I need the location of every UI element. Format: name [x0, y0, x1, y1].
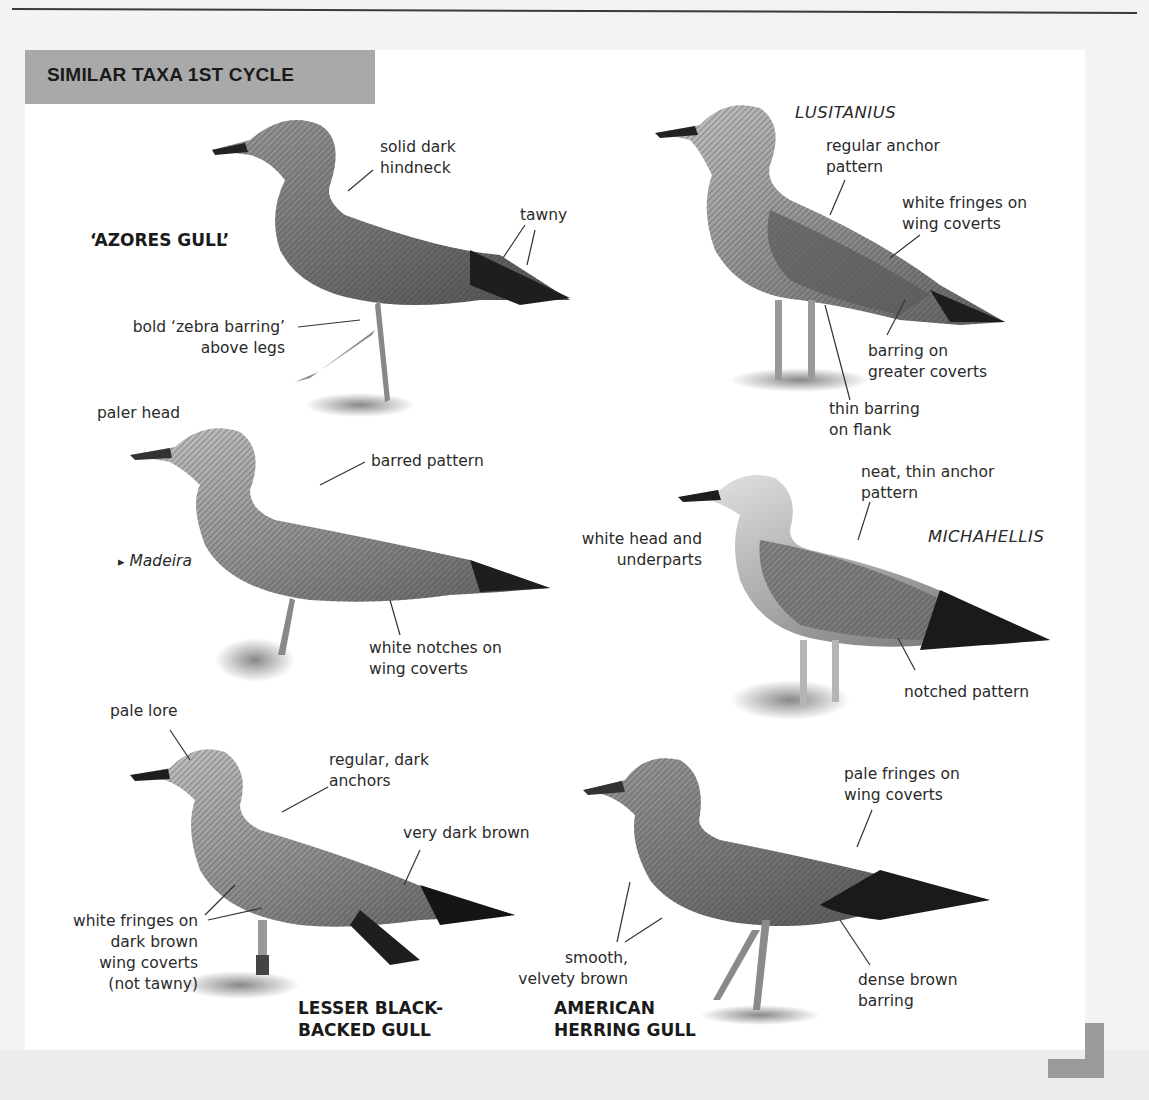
annotation-line: pale fringes on: [844, 764, 960, 785]
annotation-line: on flank: [829, 420, 920, 441]
annotation-line: wing coverts: [60, 953, 198, 974]
species-label-american-herring-gull: AMERICAN HERRING GULL: [554, 997, 696, 1041]
annotation-line: velvety brown: [510, 969, 628, 990]
annotation-line: barring: [858, 991, 958, 1012]
annotation-line: wing coverts: [902, 214, 1027, 235]
species-label-line: HERRING GULL: [554, 1019, 696, 1041]
annotation-very-dark-brown: very dark brown: [403, 823, 530, 844]
annotation-line: white fringes on: [902, 193, 1027, 214]
triangle-pointer-icon: ▸: [118, 554, 125, 569]
species-label-lesser-black-backed-gull: LESSER BLACK- BACKED GULL: [298, 997, 443, 1041]
annotation-line: (not tawny): [60, 974, 198, 995]
annotation-line: white head and: [570, 529, 702, 550]
annotation-line: bold ‘zebra barring’: [130, 317, 285, 338]
annotation-zebra-barring: bold ‘zebra barring’ above legs: [130, 317, 285, 359]
annotation-line: above legs: [130, 338, 285, 359]
annotation-line: smooth,: [510, 948, 628, 969]
annotation-thin-barring-flank: thin barring on flank: [829, 399, 920, 441]
annotation-line: greater coverts: [868, 362, 987, 383]
corner-mark: [1048, 1059, 1104, 1078]
annotation-barring-greater-coverts: barring on greater coverts: [868, 341, 987, 383]
annotation-solid-dark-hindneck: solid dark hindneck: [380, 137, 456, 179]
species-label-azores-gull: ‘AZORES GULL’: [90, 229, 229, 251]
annotation-smooth-velvety-brown: smooth, velvety brown: [510, 948, 628, 990]
annotation-line: pattern: [826, 157, 940, 178]
annotation-dense-brown-barring: dense brown barring: [858, 970, 958, 1012]
page-margin: [0, 1050, 1149, 1100]
annotation-white-notches: white notches on wing coverts: [369, 638, 502, 680]
annotation-neat-thin-anchor: neat, thin anchor pattern: [861, 462, 994, 504]
annotation-notched-pattern: notched pattern: [904, 682, 1029, 703]
annotation-line: dense brown: [858, 970, 958, 991]
annotation-barred-pattern: barred pattern: [371, 451, 484, 472]
species-label-line: AMERICAN: [554, 997, 696, 1019]
annotation-line: pattern: [861, 483, 994, 504]
location-text: Madeira: [129, 552, 191, 570]
section-title: SIMILAR TAXA 1ST CYCLE: [47, 64, 294, 86]
annotation-line: wing coverts: [844, 785, 960, 806]
annotation-line: underparts: [570, 550, 702, 571]
section-header: SIMILAR TAXA 1ST CYCLE: [25, 50, 375, 104]
annotation-line: neat, thin anchor: [861, 462, 994, 483]
annotation-line: regular, dark: [329, 750, 429, 771]
taxon-label-michahellis: MICHAHELLIS: [928, 527, 1044, 546]
annotation-white-fringes-dark-brown: white fringes on dark brown wing coverts…: [60, 911, 198, 995]
taxon-label-lusitanius: LUSITANIUS: [795, 103, 896, 122]
annotation-line: barring on: [868, 341, 987, 362]
annotation-white-fringes: white fringes on wing coverts: [902, 193, 1027, 235]
annotation-pale-lore: pale lore: [110, 701, 177, 722]
annotation-line: solid dark: [380, 137, 456, 158]
top-rule: [12, 8, 1137, 14]
annotation-tawny: tawny: [520, 205, 567, 226]
annotation-pale-fringes: pale fringes on wing coverts: [844, 764, 960, 806]
species-label-line: BACKED GULL: [298, 1019, 443, 1041]
annotation-line: white notches on: [369, 638, 502, 659]
species-label-line: LESSER BLACK-: [298, 997, 443, 1019]
annotation-paler-head: paler head: [97, 403, 180, 424]
annotation-white-head-underparts: white head and underparts: [570, 529, 702, 571]
annotation-regular-dark-anchors: regular, dark anchors: [329, 750, 429, 792]
annotation-line: dark brown: [60, 932, 198, 953]
annotation-line: anchors: [329, 771, 429, 792]
annotation-line: wing coverts: [369, 659, 502, 680]
annotation-line: white fringes on: [60, 911, 198, 932]
annotation-line: thin barring: [829, 399, 920, 420]
annotation-line: regular anchor: [826, 136, 940, 157]
annotation-regular-anchor-pattern: regular anchor pattern: [826, 136, 940, 178]
annotation-line: hindneck: [380, 158, 456, 179]
location-label-madeira: ▸ Madeira: [118, 551, 192, 572]
